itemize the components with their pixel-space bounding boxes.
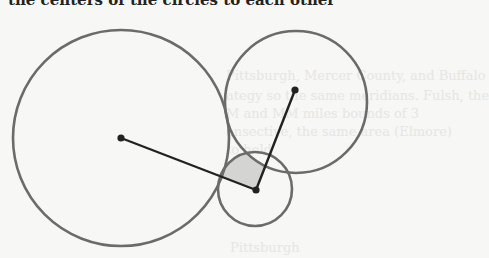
- shaded-overlap-region: [0, 0, 367, 246]
- upper-right-circle: [225, 31, 367, 173]
- center-point: [117, 134, 124, 141]
- center-point: [291, 86, 298, 93]
- center-point: [252, 186, 259, 193]
